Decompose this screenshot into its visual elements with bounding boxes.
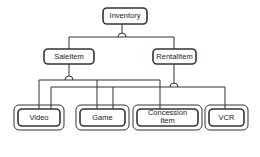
saleitem-label: SaleItem [44,49,94,64]
video-label: Video [18,109,60,126]
rentalitem-label: RentalItem [153,49,196,64]
generalization-icon [170,83,178,87]
game-label: Game [80,109,125,126]
inventory-label: Inventory [103,8,147,24]
generalization-icon [118,33,126,37]
concession-item-label: Concession Item [140,104,195,129]
vcr-label: VCR [209,109,244,126]
generalization-icon [65,76,73,80]
